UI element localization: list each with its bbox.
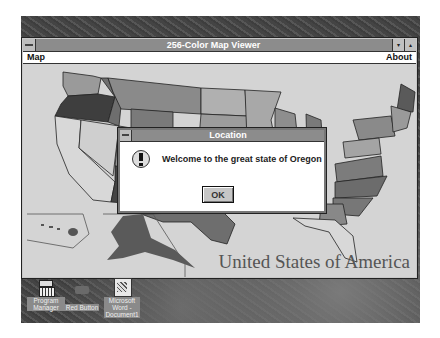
state-maine[interactable] bbox=[397, 84, 415, 112]
system-menu-button[interactable] bbox=[23, 39, 36, 51]
dialog-message: Welcome to the great state of Oregon bbox=[162, 154, 322, 164]
menu-about[interactable]: About bbox=[386, 52, 412, 63]
dialog-system-menu-button[interactable] bbox=[120, 130, 132, 141]
program-manager-icon bbox=[37, 280, 55, 296]
menu-map[interactable]: Map bbox=[27, 52, 45, 63]
exclamation-icon bbox=[132, 150, 150, 168]
red-button-icon bbox=[73, 280, 91, 296]
desktop-icon-label: Microsoft Word - Document1 bbox=[104, 297, 140, 318]
desktop-icon-red-button[interactable]: Red Button bbox=[63, 280, 101, 314]
desktop-icon-word-document[interactable]: Microsoft Word - Document1 bbox=[103, 278, 141, 321]
state-montana[interactable] bbox=[108, 78, 201, 114]
state-north-dakota[interactable] bbox=[201, 88, 247, 116]
state-washington[interactable] bbox=[63, 72, 101, 96]
window-title: 256-Color Map Viewer bbox=[37, 39, 390, 51]
word-document-icon bbox=[113, 278, 131, 296]
desktop-icon-program-manager[interactable]: Program Manager bbox=[27, 280, 65, 314]
menu-bar: Map About bbox=[23, 52, 416, 64]
system-menu-icon bbox=[122, 134, 129, 136]
dialog-title: Location bbox=[132, 130, 324, 141]
ok-button[interactable]: OK bbox=[202, 186, 234, 203]
title-bar[interactable]: 256-Color Map Viewer ▾ ▴ bbox=[23, 39, 416, 52]
desktop-icon-label: Red Button bbox=[65, 304, 100, 311]
desktop-icon-label: Program Manager bbox=[27, 297, 65, 311]
system-menu-icon bbox=[25, 44, 33, 46]
minimize-button[interactable]: ▾ bbox=[392, 39, 404, 51]
map-caption: United States of America bbox=[218, 251, 410, 273]
state-pennsylvania[interactable] bbox=[343, 138, 381, 158]
dialog-title-bar[interactable]: Location bbox=[120, 130, 324, 142]
location-dialog: Location Welcome to the great state of O… bbox=[118, 128, 326, 213]
state-new-york[interactable] bbox=[353, 116, 395, 140]
state-hawaii[interactable] bbox=[41, 224, 78, 236]
maximize-button[interactable]: ▴ bbox=[404, 39, 416, 51]
